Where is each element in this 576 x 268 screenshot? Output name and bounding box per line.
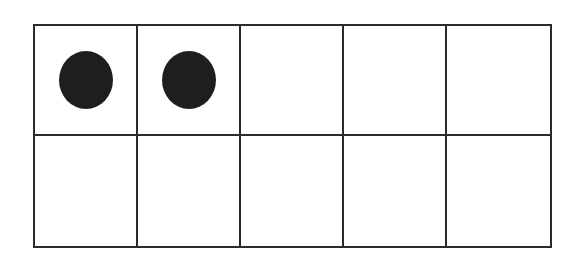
frame-cell bbox=[35, 136, 138, 246]
frame-cell bbox=[35, 26, 138, 136]
frame-cell bbox=[447, 136, 550, 246]
frame-cell bbox=[138, 136, 241, 246]
ten-frame bbox=[33, 24, 552, 248]
frame-cell bbox=[138, 26, 241, 136]
counter-dot bbox=[162, 51, 216, 109]
frame-cell bbox=[344, 26, 447, 136]
counter-dot bbox=[59, 51, 113, 109]
frame-cell bbox=[241, 26, 344, 136]
frame-cell bbox=[241, 136, 344, 246]
frame-cell bbox=[447, 26, 550, 136]
frame-cell bbox=[344, 136, 447, 246]
